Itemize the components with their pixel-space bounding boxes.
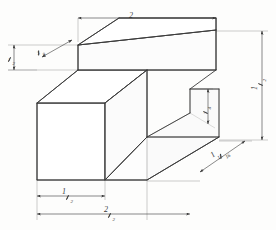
dim-right-height-denominator: 2 — [262, 79, 267, 82]
dim-label-top-width: 2 — [129, 12, 133, 20]
drawing-sheet: 2 12 38 112 34 11316 112 212 — [0, 0, 276, 230]
dim-label-bottom-inner: 112 — [62, 188, 76, 204]
dim-bottom-overall-denominator: 2 — [113, 217, 116, 222]
stepped-block-object — [37, 18, 219, 180]
dim-left-height-denominator: 2 — [13, 61, 16, 66]
dim-top-thickness-denominator: 8 — [42, 52, 47, 58]
dim-label-bottom-overall: 212 — [104, 206, 118, 222]
isometric-drawing-canvas — [0, 0, 276, 230]
fraction-bar-icon — [38, 51, 39, 56]
dim-step-height-denominator: 4 — [207, 107, 212, 110]
dim-label-left-height: 12 — [8, 50, 18, 66]
dim-label-right-height: 112 — [251, 76, 267, 90]
dim-right-height-whole: 1 — [250, 86, 259, 90]
dim-label-step-height: 34 — [196, 104, 212, 114]
dim-bottom-inner-denominator: 2 — [71, 199, 74, 204]
face-left-front — [37, 103, 105, 180]
